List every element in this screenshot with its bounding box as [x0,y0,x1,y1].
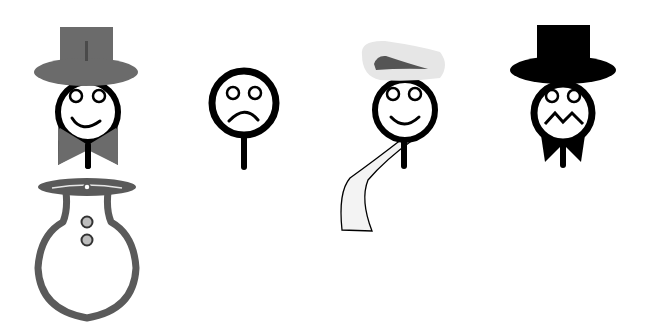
gray-top-hat-icon [34,27,138,86]
gray-top-hat-smiling-figure [34,27,138,166]
left-eye-icon [227,87,239,99]
frowning-figure [212,71,276,167]
flask-top-knob [84,184,90,190]
flask-body-outline [38,192,136,318]
black-top-hat-zigzag-figure [510,25,616,165]
right-eye-icon [249,87,261,99]
button-icon [82,235,93,246]
right-eye-icon [409,88,421,100]
left-eye-icon [70,90,82,102]
beret-icon [362,41,445,81]
beret-scarf-smiling-figure [341,41,445,231]
black-top-hat-icon [510,25,616,84]
left-eye-icon [546,90,558,102]
flask-snowman-figure [38,178,136,318]
right-eye-icon [93,90,105,102]
head-icon [534,84,592,142]
head-icon [375,80,435,140]
head-icon [212,71,276,135]
left-eye-icon [387,88,399,100]
right-eye-icon [568,90,580,102]
button-icon [82,217,93,228]
